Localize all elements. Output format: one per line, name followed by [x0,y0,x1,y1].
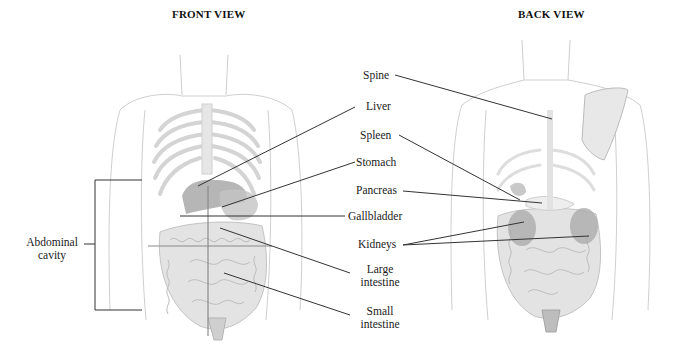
label-gallbladder: Gallbladder [348,210,402,223]
label-spine: Spine [363,69,389,82]
label-pancreas: Pancreas [356,184,397,197]
front-view-title: FRONT VIEW [172,8,245,20]
label-kidneys: Kidneys [358,238,396,251]
sternum [202,104,212,174]
back-view-title: BACK VIEW [518,8,585,20]
label-stomach: Stomach [356,156,396,169]
back-ribs [498,150,594,190]
back-spleen [510,183,526,196]
label-abdominal-cavity-line2: cavity [22,249,82,262]
label-abdominal-cavity: Abdominal cavity [22,236,82,262]
label-large-intestine-line2: intestine [355,276,405,289]
label-liver: Liver [366,100,391,113]
front-rectum [208,318,226,340]
anatomy-illustration [0,0,680,349]
back-scapula [582,88,628,160]
label-small-intestine: Small intestine [355,305,405,331]
back-kidney-left [508,210,536,246]
leader-stomach [222,162,355,207]
label-small-intestine-line1: Small [355,305,405,318]
back-rectum [542,310,560,332]
back-kidney-right [570,208,598,244]
label-abdominal-cavity-line1: Abdominal [22,236,82,249]
label-large-intestine-line1: Large [355,263,405,276]
abdominal-cavity-bracket [95,180,142,310]
label-spleen: Spleen [360,129,391,142]
anatomy-diagram: FRONT VIEW BACK VIEW Spine Liver Spleen … [0,0,680,349]
label-large-intestine: Large intestine [355,263,405,289]
leader-spine [395,75,552,119]
label-small-intestine-line2: intestine [355,318,405,331]
